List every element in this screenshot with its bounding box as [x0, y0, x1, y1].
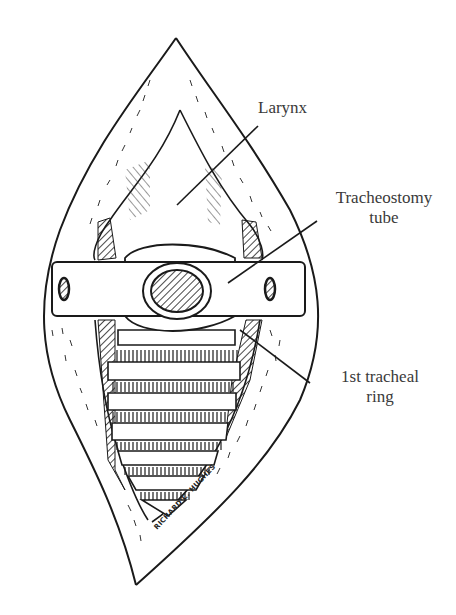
label-first-tracheal-ring: 1st tracheal ring	[310, 367, 450, 407]
tracheal-rings	[108, 330, 240, 516]
tracheostomy-illustration: RICHARD C. HUGHES	[0, 0, 456, 615]
tracheostomy-tube	[52, 245, 305, 332]
label-larynx: Larynx	[258, 98, 307, 118]
label-ring-line1: 1st tracheal	[310, 367, 450, 387]
label-tracheostomy-tube: Tracheostomy tube	[309, 188, 456, 228]
label-tube-line2: tube	[309, 208, 456, 228]
larynx-shading	[125, 160, 222, 225]
label-tube-line1: Tracheostomy	[309, 188, 456, 208]
label-ring-line2: ring	[310, 387, 450, 407]
